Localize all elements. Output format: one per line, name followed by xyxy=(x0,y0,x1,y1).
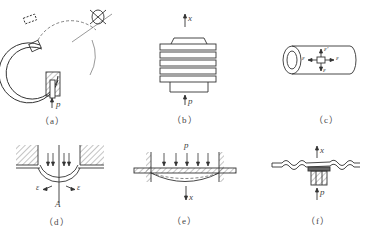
panel-f-corrugated-diaphragm xyxy=(272,146,360,200)
caption-e: （e） xyxy=(172,214,197,227)
label-d-strain-left: ε xyxy=(36,183,39,192)
caption-c: （c） xyxy=(314,113,339,126)
label-d-strain-right: ε xyxy=(77,183,80,192)
caption-f: （f） xyxy=(306,214,330,227)
label-e-pressure: p xyxy=(184,140,189,150)
label-a-pressure: p xyxy=(56,99,61,109)
label-b-displacement: x xyxy=(188,13,192,23)
panel-b-bellows xyxy=(160,14,216,105)
label-c-strain-bottom: ε xyxy=(323,66,326,74)
label-d-point-a: A xyxy=(55,199,61,209)
label-f-displacement: x xyxy=(320,145,324,155)
panel-d-curved-diaphragm xyxy=(16,145,104,203)
label-c-strain-left: ε xyxy=(302,54,305,62)
caption-d: （d） xyxy=(44,215,70,228)
label-f-pressure: p xyxy=(320,187,325,197)
panel-c-tube xyxy=(283,46,356,74)
panel-a-bourdon-tube xyxy=(0,10,112,108)
label-c-strain-right: ε xyxy=(336,54,339,62)
panel-e-flat-diaphragm xyxy=(134,152,236,200)
label-b-pressure: p xyxy=(188,96,193,106)
caption-b: （b） xyxy=(172,113,198,126)
label-c-strain-top: ε' xyxy=(324,45,328,53)
label-e-displacement: x xyxy=(189,192,193,202)
caption-a: （a） xyxy=(40,114,65,127)
